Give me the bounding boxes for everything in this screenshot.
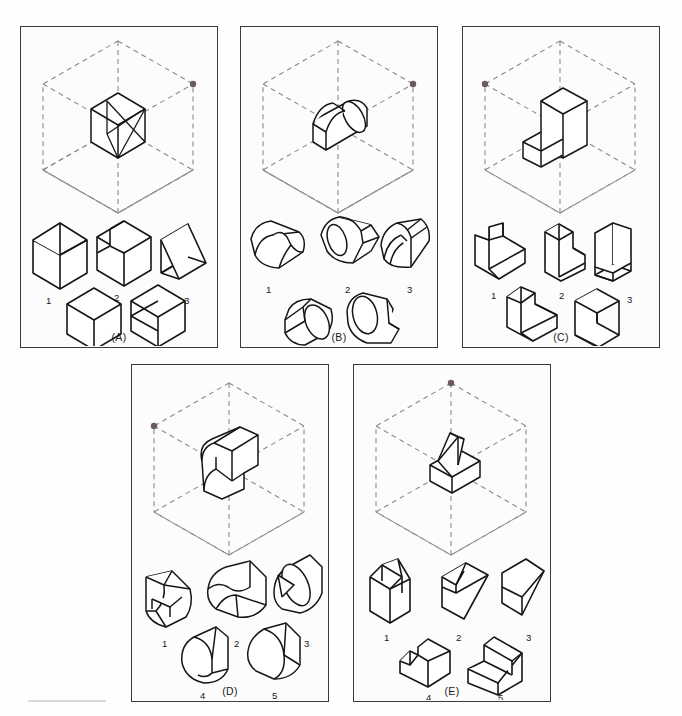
choice-c-3-number: 3	[627, 294, 632, 305]
figure-sheet: 1 2 3 4 5 (A)	[0, 0, 682, 716]
choice-a-1-number: 1	[46, 295, 51, 306]
panel-b[interactable]: 1 2 3 4 5 (B)	[240, 26, 438, 348]
panel-e-label: (E)	[354, 685, 550, 697]
target-object-a	[91, 93, 145, 158]
panel-a-label: (A)	[21, 331, 217, 343]
panel-c-label: (C)	[463, 331, 659, 343]
panel-e-drawing: 1 2 3 4 5	[354, 365, 549, 700]
choice-b-1[interactable]	[251, 221, 304, 268]
choice-e-3-number: 3	[526, 632, 531, 643]
panel-d-drawing: 1 2 3 4 5	[132, 365, 327, 700]
choice-c-1-number: 1	[491, 290, 496, 301]
choice-d-1[interactable]	[146, 571, 191, 627]
choice-b-1-number: 1	[266, 284, 271, 295]
panel-a-drawing: 1 2 3 4 5	[21, 27, 216, 346]
choice-e-3[interactable]	[502, 559, 544, 615]
choice-d-4[interactable]	[182, 627, 228, 683]
vertex-marker-dot	[190, 81, 196, 87]
vertex-marker-dot	[410, 81, 416, 87]
panel-e[interactable]: 1 2 3 4 5 (E)	[353, 364, 551, 702]
choice-c-2[interactable]	[545, 224, 585, 281]
panel-b-drawing: 1 2 3 4 5	[241, 27, 436, 346]
choice-b-3[interactable]	[381, 219, 429, 267]
panel-d[interactable]: 1 2 3 4 5 (D)	[131, 364, 329, 702]
choice-b-2[interactable]	[321, 217, 379, 263]
target-object-c	[523, 88, 587, 167]
panel-c[interactable]: 1 2 3 4 5 (C)	[462, 26, 660, 348]
choice-e-2-number: 2	[456, 632, 461, 643]
footer-rule	[28, 700, 106, 702]
choice-a-3[interactable]	[161, 224, 206, 279]
choice-b-3-number: 3	[407, 284, 412, 295]
choice-c-2-number: 2	[559, 290, 564, 301]
target-object-e	[430, 433, 480, 493]
choice-e-1-number: 1	[384, 632, 389, 643]
target-object-b	[313, 98, 370, 150]
choice-c-1[interactable]	[475, 223, 525, 279]
choice-d-2-number: 2	[234, 638, 239, 649]
choice-d-2[interactable]	[208, 561, 266, 617]
choice-d-1-number: 1	[162, 638, 167, 649]
choice-a-2[interactable]	[97, 221, 151, 286]
choice-d-3[interactable]	[274, 555, 322, 613]
choice-e-2[interactable]	[442, 563, 488, 619]
vertex-marker-dot	[151, 423, 157, 429]
target-object-d	[201, 427, 258, 499]
panel-d-label: (D)	[132, 685, 328, 697]
choice-a-1[interactable]	[33, 223, 87, 289]
choice-d-5[interactable]	[248, 623, 300, 679]
choice-e-4[interactable]	[400, 639, 450, 687]
choice-d-3-number: 3	[304, 638, 309, 649]
panel-b-label: (B)	[241, 331, 437, 343]
panel-c-drawing: 1 2 3 4 5	[463, 27, 658, 346]
choice-c-3[interactable]	[595, 223, 631, 281]
choice-b-2-number: 2	[345, 284, 350, 295]
vertex-marker-dot	[448, 380, 454, 386]
panel-a[interactable]: 1 2 3 4 5 (A)	[20, 26, 218, 348]
vertex-marker-dot	[482, 81, 488, 87]
choice-e-1[interactable]	[370, 559, 410, 623]
